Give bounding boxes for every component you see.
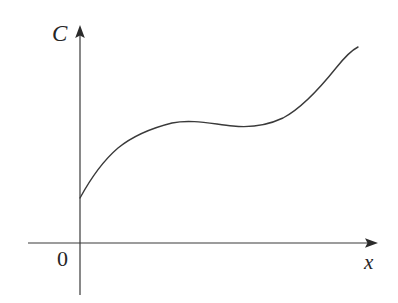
x-axis-label: x <box>364 252 373 273</box>
y-axis-label: C <box>52 22 67 45</box>
cost-curve-figure: C x 0 <box>0 0 398 303</box>
origin-label: 0 <box>57 248 68 270</box>
cost-curve-path <box>80 47 358 198</box>
